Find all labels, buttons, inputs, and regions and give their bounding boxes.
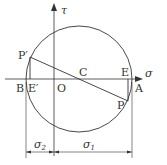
- label-a: A: [134, 82, 144, 95]
- dim-arrow-right-start-icon: [54, 151, 59, 154]
- label-sigma-2: σ2: [34, 138, 47, 152]
- label-c: C: [79, 66, 87, 79]
- tau-axis-arrow-icon: [51, 3, 57, 11]
- label-sigma-1: σ1: [83, 138, 95, 152]
- dim-arrow-left-start-icon: [26, 151, 31, 154]
- label-e-prime: E′: [28, 82, 39, 95]
- dim-arrow-right-end-icon: [127, 151, 132, 154]
- label-b: B: [16, 82, 24, 95]
- label-o: O: [57, 82, 66, 95]
- label-p-prime: P′: [18, 49, 28, 62]
- mohr-circle-diagram: τ σ P′ B E′ O C E A P σ2 σ1: [0, 0, 167, 165]
- sigma-axis-label: σ: [145, 67, 153, 80]
- label-e: E: [121, 66, 129, 79]
- label-p: P: [117, 99, 125, 112]
- tau-axis-label: τ: [61, 4, 68, 17]
- dim-arrow-left-end-icon: [49, 151, 54, 154]
